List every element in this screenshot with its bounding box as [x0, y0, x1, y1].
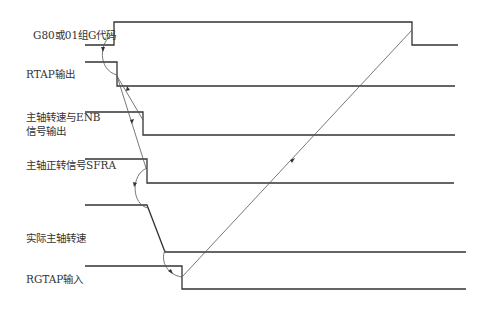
waveform-g80 — [85, 22, 458, 45]
arrow-icon — [101, 47, 105, 52]
waveform-rtap — [85, 62, 455, 86]
waveform-sfra — [85, 159, 454, 183]
waveform-speed — [85, 205, 466, 252]
arrow-icon — [168, 269, 173, 274]
timing-diagram — [0, 0, 488, 312]
arc-sfra-to-speed — [135, 168, 148, 208]
arc-speed-to-rgtap — [164, 250, 182, 277]
waveform-rgtap — [85, 266, 466, 289]
link-rtap-to-enb — [117, 76, 143, 120]
arc-g80-to-rtap — [102, 33, 117, 75]
link-rgtap-to-g80 — [182, 30, 412, 277]
arrow-icon — [126, 86, 130, 91]
